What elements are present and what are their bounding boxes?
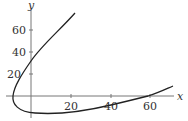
x-axis-label: x bbox=[177, 90, 184, 103]
y-axis-label: y bbox=[27, 0, 35, 12]
y-tick-label-40: 40 bbox=[12, 46, 26, 59]
parametric-curve bbox=[13, 13, 173, 113]
y-tick-label-60: 60 bbox=[12, 24, 26, 37]
x-tick-label-60: 60 bbox=[143, 100, 157, 113]
chart: 20 40 60 20 40 60 x y bbox=[0, 0, 188, 121]
